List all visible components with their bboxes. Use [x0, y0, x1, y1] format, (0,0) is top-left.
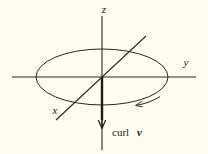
- curl-vector-label: curl v: [112, 122, 142, 139]
- z-axis-label: z: [101, 3, 107, 15]
- figure-canvas: z y x curl v: [0, 0, 208, 154]
- y-axis-label: y: [183, 56, 189, 68]
- v-symbol: v: [137, 126, 142, 138]
- circulation-arrow-icon: [136, 97, 160, 106]
- x-axis-label: x: [52, 104, 58, 116]
- curl-vector-figure: z y x curl v: [0, 0, 208, 154]
- curl-word: curl: [112, 126, 129, 138]
